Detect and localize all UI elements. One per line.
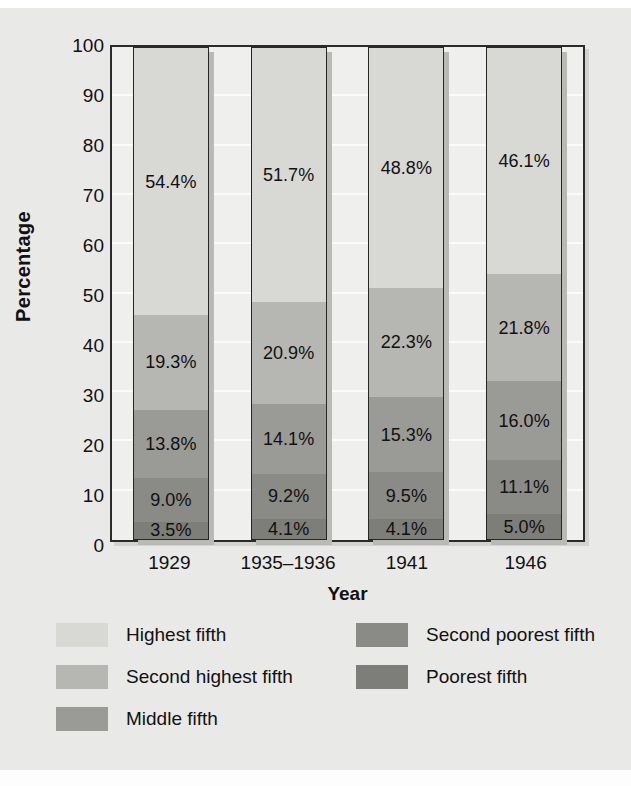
bar-segment[interactable]: 20.9%: [252, 302, 326, 405]
bar-segment[interactable]: 15.3%: [369, 397, 443, 472]
bar-segment-label: 21.8%: [499, 319, 550, 337]
bar-segment[interactable]: 3.5%: [134, 522, 208, 539]
bar-segment-label: 22.3%: [381, 333, 432, 351]
bar-segment[interactable]: 4.1%: [369, 519, 443, 539]
chart-page: Percentage 1009080706050403020100 54.4%1…: [0, 0, 631, 786]
x-axis-ticks: 19291935–193619411946: [110, 552, 585, 578]
bar-segment[interactable]: 46.1%: [487, 48, 561, 274]
stacked-bar[interactable]: 51.7%20.9%14.1%9.2%4.1%: [251, 47, 327, 540]
x-axis-label: Year: [110, 583, 585, 605]
x-axis-tick-label: 1946: [504, 552, 546, 574]
legend-swatch: [356, 623, 408, 647]
legend-swatch: [56, 665, 108, 689]
bar-segment-label: 3.5%: [150, 522, 191, 539]
legend-swatch: [356, 665, 408, 689]
x-axis-tick-label: 1941: [386, 552, 428, 574]
y-axis-tick-label: 10: [52, 486, 104, 505]
x-axis-tick-label: 1929: [148, 552, 190, 574]
bar-segment-label: 9.0%: [150, 491, 191, 509]
bar-segment-label: 51.7%: [263, 166, 314, 184]
legend-swatch: [56, 623, 108, 647]
y-axis-tick-label: 60: [52, 236, 104, 255]
bar-segment[interactable]: 9.2%: [252, 474, 326, 519]
y-axis-tick-label: 50: [52, 286, 104, 305]
bar-segment-label: 15.3%: [381, 426, 432, 444]
bar-segment-label: 11.1%: [499, 478, 549, 496]
y-axis-label: Percentage: [12, 187, 35, 347]
bar-segment-label: 14.1%: [263, 430, 314, 448]
bar-segment[interactable]: 9.5%: [369, 472, 443, 519]
y-axis-tick-label: 70: [52, 186, 104, 205]
bar-segment-label: 54.4%: [145, 173, 196, 191]
y-axis-tick-label: 90: [52, 86, 104, 105]
legend: Highest fifthSecond highest fifthMiddle …: [0, 622, 631, 742]
y-axis-tick-label: 20: [52, 436, 104, 455]
stacked-bar[interactable]: 54.4%19.3%13.8%9.0%3.5%: [133, 47, 209, 540]
stacked-bar[interactable]: 48.8%22.3%15.3%9.5%4.1%: [368, 47, 444, 540]
bar-segment[interactable]: 5.0%: [487, 514, 561, 539]
bar-segment[interactable]: 9.0%: [134, 478, 208, 522]
page-bottom-margin: [0, 770, 631, 786]
y-axis-tick-label: 80: [52, 136, 104, 155]
bar-column: 48.8%22.3%15.3%9.5%4.1%: [368, 47, 444, 540]
bar-segment-label: 9.2%: [268, 487, 309, 505]
bar-column: 46.1%21.8%16.0%11.1%5.0%: [486, 47, 562, 540]
legend-item[interactable]: Poorest fifth: [356, 664, 527, 690]
legend-label: Highest fifth: [126, 624, 226, 646]
bar-segment-label: 16.0%: [499, 412, 550, 430]
bar-segment-label: 5.0%: [504, 518, 545, 536]
y-axis-tick-label: 30: [52, 386, 104, 405]
bar-segment-label: 9.5%: [386, 487, 427, 505]
bar-column: 54.4%19.3%13.8%9.0%3.5%: [133, 47, 209, 540]
bar-group: 54.4%19.3%13.8%9.0%3.5%51.7%20.9%14.1%9.…: [112, 47, 583, 540]
bar-segment[interactable]: 4.1%: [252, 519, 326, 539]
bar-segment[interactable]: 11.1%: [487, 460, 561, 515]
bar-segment-label: 4.1%: [386, 520, 427, 538]
page-top-margin: [0, 0, 631, 8]
bar-segment[interactable]: 22.3%: [369, 288, 443, 397]
bar-segment-label: 4.1%: [268, 520, 309, 538]
legend-item[interactable]: Second highest fifth: [56, 664, 293, 690]
y-axis-tick-label: 100: [52, 36, 104, 55]
stacked-bar[interactable]: 46.1%21.8%16.0%11.1%5.0%: [486, 47, 562, 540]
bar-segment-label: 48.8%: [381, 159, 432, 177]
bar-segment-label: 46.1%: [499, 152, 550, 170]
bar-segment[interactable]: 13.8%: [134, 410, 208, 478]
legend-item[interactable]: Second poorest fifth: [356, 622, 595, 648]
bar-column: 51.7%20.9%14.1%9.2%4.1%: [251, 47, 327, 540]
legend-label: Middle fifth: [126, 708, 218, 730]
legend-swatch: [56, 707, 108, 731]
bar-segment[interactable]: 21.8%: [487, 274, 561, 381]
bar-segment[interactable]: 19.3%: [134, 315, 208, 410]
y-axis-tick-label: 0: [52, 536, 104, 555]
y-axis-tick-label: 40: [52, 336, 104, 355]
bar-segment[interactable]: 48.8%: [369, 48, 443, 288]
bar-segment[interactable]: 51.7%: [252, 48, 326, 302]
bar-segment-label: 13.8%: [145, 435, 196, 453]
legend-item[interactable]: Middle fifth: [56, 706, 218, 732]
bar-segment[interactable]: 14.1%: [252, 404, 326, 473]
y-axis-ticks: 1009080706050403020100: [52, 33, 104, 545]
legend-label: Second poorest fifth: [426, 624, 595, 646]
bar-segment[interactable]: 54.4%: [134, 48, 208, 315]
bar-segment-label: 19.3%: [145, 353, 196, 371]
legend-item[interactable]: Highest fifth: [56, 622, 226, 648]
legend-label: Second highest fifth: [126, 666, 293, 688]
bar-segment-label: 20.9%: [263, 344, 314, 362]
bar-segment[interactable]: 16.0%: [487, 381, 561, 460]
legend-label: Poorest fifth: [426, 666, 527, 688]
x-axis-tick-label: 1935–1936: [241, 552, 336, 574]
plot-area: 54.4%19.3%13.8%9.0%3.5%51.7%20.9%14.1%9.…: [110, 45, 585, 542]
